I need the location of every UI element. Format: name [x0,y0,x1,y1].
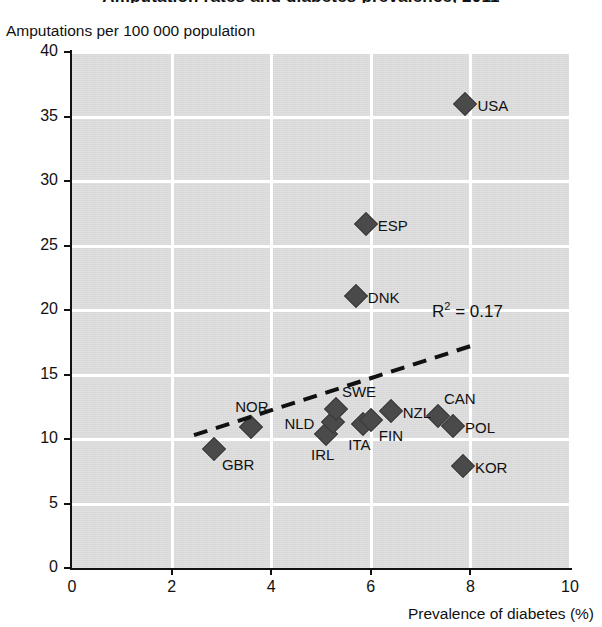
y-axis-tick [64,309,72,311]
y-axis-tick [64,374,72,376]
data-point-label: ITA [348,435,370,452]
data-point-label: SWE [342,383,376,400]
y-axis-tick [64,503,72,505]
y-axis-tick-label: 30 [12,171,58,189]
x-axis-tick-label: 10 [550,578,590,596]
data-point-marker[interactable] [239,415,263,439]
grid-line-vertical [171,52,174,568]
y-axis-tick [64,567,72,569]
data-point-marker[interactable] [453,92,477,116]
y-axis-tick-label: 20 [12,300,58,318]
y-axis-tick-label: 10 [12,429,58,447]
grid-line-horizontal [72,503,570,506]
y-axis-tick [64,245,72,247]
data-point-label: CAN [444,389,476,406]
data-point-marker[interactable] [344,284,368,308]
x-axis-line [70,568,572,570]
x-axis-tick [469,568,471,575]
grid-line-vertical [569,52,572,568]
y-axis-tick [64,116,72,118]
grid-line-horizontal [72,116,570,119]
y-axis-tick-label: 15 [12,365,58,383]
y-axis-tick-label: 40 [12,42,58,60]
x-axis-tick-label: 2 [152,578,192,596]
data-point-label: NOR [235,398,268,415]
x-axis-tick-label: 8 [450,578,490,596]
r-squared-annotation: R2 = 0.17 [432,300,503,322]
data-point-label: ESP [378,216,408,233]
data-point-label: FIN [379,426,403,443]
y-axis-tick-label: 5 [12,494,58,512]
data-point-label: DNK [368,288,400,305]
grid-line-vertical [270,52,273,568]
r-squared-prefix: R [432,302,444,321]
y-axis-tick-label: 25 [12,236,58,254]
y-axis-tick-label: 35 [12,107,58,125]
grid-line-vertical [370,52,373,568]
y-axis-tick [64,180,72,182]
data-point-marker[interactable] [354,212,378,236]
data-point-label: GBR [222,456,255,473]
x-axis-tick-label: 0 [52,578,92,596]
y-axis-tick [64,438,72,440]
data-point-label: USA [477,96,508,113]
data-point-label: NLD [284,415,314,432]
x-axis-tick-label: 6 [351,578,391,596]
r-squared-suffix: = 0.17 [450,302,502,321]
data-point-label: KOR [475,459,508,476]
x-axis-tick [270,568,272,575]
grid-line-horizontal [72,374,570,377]
data-point-label: IRL [311,445,334,462]
grid-line-horizontal [72,180,570,183]
x-axis-tick-label: 4 [251,578,291,596]
y-axis-label: Amputations per 100 000 population [6,22,255,40]
x-axis-tick [370,568,372,575]
x-axis-label: Prevalence of diabetes (%) [408,605,594,623]
grid-line-horizontal [72,51,570,54]
data-point-label: NZL [403,403,431,420]
data-point-label: POL [465,419,495,436]
y-axis-tick-label: 0 [12,558,58,576]
grid-line-horizontal [72,245,570,248]
y-axis-tick [64,51,72,53]
x-axis-tick [171,568,173,575]
chart-title: Amputation rates and diabetes prevalence… [0,0,602,3]
